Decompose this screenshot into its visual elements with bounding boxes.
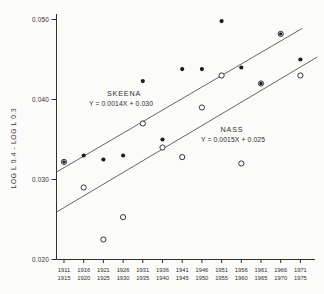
data-point-skeena — [279, 32, 282, 35]
x-tick-label-end-year: 1945 — [176, 275, 189, 281]
y-tick-label: 0.040 — [32, 96, 49, 103]
x-tick-label-start-year: 1926 — [117, 267, 130, 273]
x-tick-label-start-year: 1921 — [97, 267, 110, 273]
x-tick-label-start-year: 1916 — [77, 267, 90, 273]
scatter-plot-svg: 0.0200.0300.0400.05019111915191619201921… — [0, 0, 324, 294]
data-point-nass — [239, 161, 244, 166]
x-tick-label-start-year: 1931 — [136, 267, 149, 273]
x-tick-label-end-year: 1970 — [274, 275, 287, 281]
x-tick-label-start-year: 1911 — [58, 267, 70, 273]
annotation-skeena-eq: Y = 0.0014X + 0.030 — [89, 100, 153, 107]
x-tick-label-end-year: 1915 — [58, 275, 71, 281]
data-point-skeena — [141, 79, 145, 83]
data-point-nass — [298, 73, 303, 78]
scatter-plot-figure: 0.0200.0300.0400.05019111915191619201921… — [0, 0, 324, 294]
x-tick-label-start-year: 1966 — [274, 267, 287, 273]
x-tick-label-start-year: 1936 — [156, 267, 169, 273]
data-point-nass — [140, 121, 145, 126]
data-point-skeena — [220, 19, 224, 23]
data-point-nass — [101, 237, 106, 242]
x-tick-label-start-year: 1946 — [195, 267, 208, 273]
fit-line-nass — [56, 57, 317, 212]
data-point-skeena — [298, 57, 302, 61]
data-point-skeena — [82, 153, 86, 157]
data-point-nass — [199, 105, 204, 110]
x-tick-label-start-year: 1971 — [294, 267, 307, 273]
y-tick-label: 0.030 — [32, 176, 49, 183]
data-point-skeena — [121, 153, 125, 157]
data-point-nass — [219, 73, 224, 78]
x-tick-label-end-year: 1925 — [97, 275, 110, 281]
data-point-skeena — [180, 67, 184, 71]
x-tick-label-start-year: 1941 — [176, 267, 189, 273]
x-tick-label-start-year: 1961 — [255, 267, 268, 273]
x-tick-label-end-year: 1955 — [215, 275, 228, 281]
data-point-skeena — [62, 160, 65, 163]
x-tick-label-end-year: 1960 — [235, 275, 248, 281]
x-tick-label-end-year: 1940 — [156, 275, 169, 281]
data-point-skeena — [239, 65, 243, 69]
y-tick-label: 0.020 — [32, 256, 49, 263]
x-tick-label-end-year: 1920 — [77, 275, 90, 281]
data-point-nass — [81, 185, 86, 190]
y-axis-title: LOG L 0.4 - LOG L 0.3 — [10, 108, 17, 189]
annotation-skeena-name: SKEENA — [107, 89, 141, 98]
y-tick-label: 0.050 — [32, 16, 49, 23]
data-point-skeena — [259, 82, 262, 85]
data-point-skeena — [160, 137, 164, 141]
annotation-nass-name: NASS — [221, 125, 244, 134]
x-tick-label-end-year: 1930 — [117, 275, 130, 281]
x-tick-label-end-year: 1975 — [294, 275, 307, 281]
x-tick-label-start-year: 1956 — [235, 267, 248, 273]
x-tick-label-end-year: 1935 — [136, 275, 149, 281]
data-point-nass — [180, 155, 185, 160]
x-tick-label-start-year: 1951 — [215, 267, 228, 273]
annotation-nass-eq: Y = 0.0015X + 0.025 — [201, 136, 265, 143]
data-point-nass — [160, 145, 165, 150]
data-point-skeena — [200, 67, 204, 71]
x-tick-label-end-year: 1950 — [195, 275, 208, 281]
x-tick-label-end-year: 1965 — [255, 275, 268, 281]
data-point-nass — [121, 215, 126, 220]
data-point-skeena — [101, 157, 105, 161]
